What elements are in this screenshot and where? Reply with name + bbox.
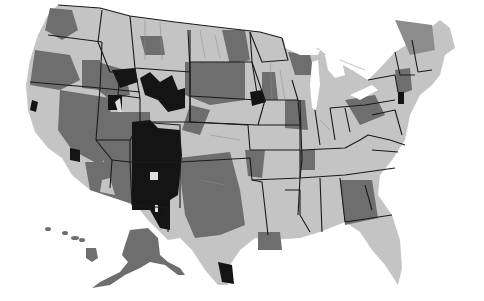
us-choropleth-map (0, 0, 484, 301)
map-canvas (0, 0, 484, 301)
hawaii-inset (45, 227, 98, 262)
dark-region-california (70, 148, 80, 162)
